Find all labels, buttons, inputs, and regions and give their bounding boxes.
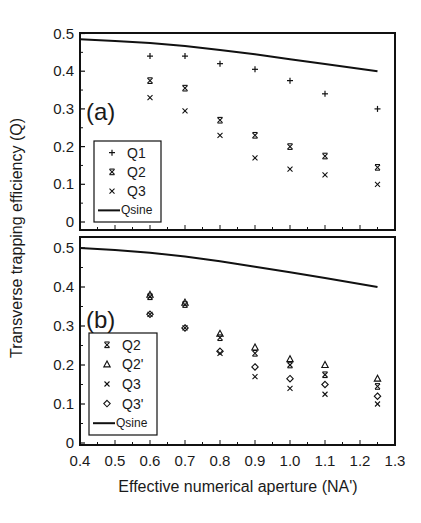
q3-prime-marker: [322, 381, 328, 387]
q3-marker: [323, 392, 328, 397]
q1-marker: [147, 53, 153, 59]
x-axis-title: Effective numerical aperture (NA'): [118, 478, 357, 495]
qsine-line: [80, 248, 378, 287]
x-tick-label: 0.8: [210, 452, 231, 469]
q3-marker: [218, 133, 223, 138]
legend-label: Q3': [122, 396, 143, 412]
q2-marker: [253, 351, 258, 357]
q2-marker: [218, 335, 223, 341]
q2-marker: [375, 384, 380, 390]
q2-prime-marker: [287, 356, 293, 362]
legend-label: Q3: [122, 376, 141, 392]
legend-label: Q2: [122, 337, 141, 353]
panel-label: (b): [86, 306, 115, 333]
y-tick-label: 0.5: [53, 25, 74, 42]
legend-label: Q3: [127, 183, 146, 199]
q1-marker: [322, 91, 328, 97]
q3-marker: [288, 386, 293, 391]
qsine-line: [80, 39, 378, 71]
y-tick-label: 0: [66, 434, 74, 451]
q1-marker: [217, 61, 223, 67]
q2-marker: [148, 78, 153, 84]
q3-prime-marker: [252, 364, 258, 370]
q2-marker: [323, 153, 328, 159]
x-tick-label: 0.7: [175, 452, 196, 469]
q2-marker: [183, 85, 188, 91]
q3-marker: [375, 402, 380, 407]
q2-marker: [288, 144, 293, 150]
q2-marker: [253, 132, 258, 138]
q2-prime-marker: [322, 362, 328, 368]
q1-marker: [182, 53, 188, 59]
legend-label: Qsine: [116, 416, 148, 430]
x-tick-label: 1.1: [315, 452, 336, 469]
legend-label: Q1: [127, 145, 146, 161]
y-tick-label: 0.4: [53, 278, 74, 295]
q1-marker: [252, 66, 258, 72]
y-axis-title: Transverse trapping efficiency (Q): [8, 118, 25, 358]
q2-marker: [288, 362, 293, 368]
x-tick-label: 0.6: [140, 452, 161, 469]
y-tick-label: 0: [66, 213, 74, 230]
q2-marker: [218, 117, 223, 123]
q3-marker: [288, 167, 293, 172]
q3-marker: [183, 108, 188, 113]
y-tick-label: 0.3: [53, 100, 74, 117]
y-tick-label: 0.5: [53, 239, 74, 256]
q2-prime-marker: [252, 344, 258, 350]
q2-marker: [375, 165, 380, 171]
q3-prime-marker: [287, 375, 293, 381]
x-tick-label: 0.9: [245, 452, 266, 469]
q3-prime-marker: [374, 393, 380, 399]
figure: 00.10.20.30.40.5(a)Q1Q2Q3Qsine 00.10.20.…: [0, 0, 421, 523]
legend-label: Q2': [122, 356, 143, 372]
q2-prime-marker: [374, 375, 380, 381]
x-axis: 0.40.50.60.70.80.91.01.11.21.3: [70, 452, 406, 469]
q3-marker: [253, 374, 258, 379]
y-tick-label: 0.1: [53, 395, 74, 412]
y-tick-label: 0.2: [53, 356, 74, 373]
legend-label: Q2: [127, 164, 146, 180]
y-tick-label: 0.2: [53, 138, 74, 155]
y-tick-label: 0.3: [53, 317, 74, 334]
q3-marker: [148, 95, 153, 100]
y-tick-label: 0.1: [53, 175, 74, 192]
legend: Q1Q2Q3Qsine: [94, 141, 161, 222]
q2-marker: [323, 372, 328, 378]
panel-a: 00.10.20.30.40.5(a)Q1Q2Q3Qsine: [53, 25, 395, 231]
x-tick-label: 0.5: [105, 452, 126, 469]
panel-b: 00.10.20.30.40.5(b)Q2Q2'Q3Q3'Qsine: [53, 237, 395, 451]
q3-marker: [253, 155, 258, 160]
y-tick-label: 0.4: [53, 62, 74, 79]
x-tick-label: 1.2: [350, 452, 371, 469]
q3-marker: [375, 182, 380, 187]
legend-label: Qsine: [121, 203, 153, 217]
q1-marker: [287, 78, 293, 84]
q1-marker: [375, 106, 381, 112]
x-tick-label: 1.0: [280, 452, 301, 469]
legend: Q2Q2'Q3Q3'Qsine: [89, 333, 157, 435]
x-tick-label: 1.3: [385, 452, 406, 469]
x-tick-label: 0.4: [70, 452, 91, 469]
panel-label: (a): [86, 98, 115, 125]
q3-marker: [323, 172, 328, 177]
